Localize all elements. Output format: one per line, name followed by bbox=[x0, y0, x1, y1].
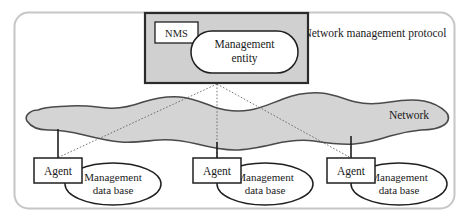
agent-left-database-label-line1: Management bbox=[84, 171, 141, 183]
nms-tag-label: NMS bbox=[165, 28, 188, 39]
network-management-diagram: Network Network management protocol NMS … bbox=[0, 0, 468, 223]
agent-middle-label: Agent bbox=[203, 165, 232, 178]
agent-left-label: Agent bbox=[44, 165, 73, 178]
network-label: Network bbox=[389, 109, 429, 121]
management-entity-label-line1: Management bbox=[214, 38, 275, 51]
agent-right-label: Agent bbox=[337, 165, 366, 178]
agent-right-database-label-line2: data base bbox=[379, 184, 420, 196]
agent-middle-database-label-line1: Management bbox=[236, 171, 293, 183]
agent-middle-database-label-line2: data base bbox=[245, 184, 286, 196]
protocol-caption-line1: Network management protocol bbox=[303, 27, 446, 40]
agent-left-database-label-line2: data base bbox=[93, 184, 134, 196]
agent-right-database-label-line1: Management bbox=[370, 171, 427, 183]
management-entity-label-line2: entity bbox=[231, 52, 257, 65]
diagram-canvas: Network Network management protocol NMS … bbox=[0, 0, 468, 223]
